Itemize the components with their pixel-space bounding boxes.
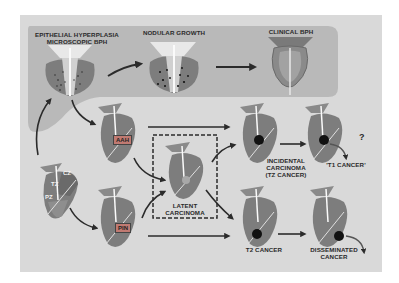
- zone-label-tz: TZ: [51, 181, 58, 187]
- label-line: MICROSCOPIC BPH: [32, 38, 122, 45]
- label-line: EPITHELIAL HYPERPLASIA: [32, 31, 122, 38]
- label-t2-cancer: T2 CANCER: [240, 246, 288, 253]
- label-question-mark: ?: [359, 134, 365, 141]
- label-epithelial-hyperplasia: EPITHELIAL HYPERPLASIA MICROSCOPIC BPH: [32, 31, 122, 45]
- label-line: CANCER: [304, 253, 364, 260]
- label-line: LATENT: [160, 202, 210, 209]
- label-line: CARCINOMA: [160, 209, 210, 216]
- zone-label-cz: CZ: [63, 170, 71, 176]
- label-incidental-carcinoma: INCIDENTAL CARCINOMA (TZ CANCER): [256, 157, 316, 178]
- label-line: (TZ CANCER): [256, 171, 316, 178]
- zone-label-pz: PZ: [45, 194, 53, 200]
- label-latent-carcinoma: LATENT CARCINOMA: [160, 202, 210, 216]
- pin-label-box: PIN: [115, 223, 131, 233]
- label-line: CARCINOMA: [256, 164, 316, 171]
- aah-label-box: AAH: [113, 135, 132, 145]
- label-line: DISSEMINATED: [304, 246, 364, 253]
- label-line: INCIDENTAL: [256, 157, 316, 164]
- label-disseminated-cancer: DISSEMINATED CANCER: [304, 246, 364, 260]
- label-clinical-bph: CLINICAL BPH: [264, 28, 318, 35]
- label-nodular-growth: NODULAR GROWTH: [138, 29, 210, 36]
- label-t1-cancer: 'T1 CANCER': [322, 161, 370, 168]
